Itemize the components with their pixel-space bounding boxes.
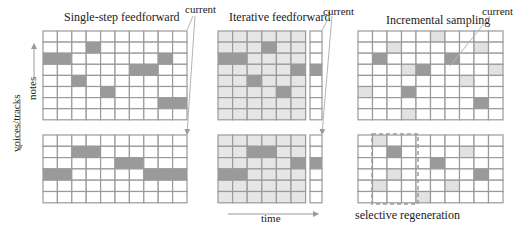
- grid-cell: [115, 169, 129, 180]
- grid-cell: [115, 98, 129, 109]
- grid-cell: [416, 42, 431, 53]
- grid-cell: [173, 87, 187, 98]
- grid-cell: [129, 98, 143, 109]
- grid-cell: [276, 158, 291, 169]
- grid-cell: [43, 53, 57, 64]
- grid-cell: [276, 98, 291, 109]
- grid-cell: [460, 53, 475, 64]
- grid-cell: [173, 42, 187, 53]
- grid-cell: [72, 192, 86, 203]
- grid-cell: [474, 53, 489, 64]
- grid-cell: [129, 53, 143, 64]
- grid-cell: [431, 158, 446, 169]
- grid-cell: [276, 146, 291, 157]
- grid-cell: [358, 180, 373, 191]
- grid-cell: [57, 75, 71, 86]
- grid-cell: [72, 87, 86, 98]
- grid-cell: [247, 158, 262, 169]
- diagram-canvas: [0, 0, 516, 232]
- grid-cell: [218, 75, 233, 86]
- grid-cell: [262, 31, 277, 42]
- grid-cell: [310, 158, 322, 169]
- grid-cell: [129, 31, 143, 42]
- grid-cell: [489, 135, 504, 146]
- grid-cell: [276, 31, 291, 42]
- grid-cell: [247, 64, 262, 75]
- grid-cell: [310, 109, 322, 120]
- grid-cell: [489, 87, 504, 98]
- grid-cell: [310, 135, 322, 146]
- grid-cell: [218, 146, 233, 157]
- grid-cell: [460, 98, 475, 109]
- grid-cell: [262, 109, 277, 120]
- grid-cell: [218, 64, 233, 75]
- grid-cell: [474, 146, 489, 157]
- grid-cell: [86, 42, 100, 53]
- grid-single-top: [43, 31, 187, 120]
- grid-cell: [144, 87, 158, 98]
- grid-cell: [445, 180, 460, 191]
- grid-cell: [489, 146, 504, 157]
- grid-cell: [387, 64, 402, 75]
- grid-cell: [445, 192, 460, 203]
- grid-cell: [57, 135, 71, 146]
- grid-cell: [291, 42, 306, 53]
- grid-cell: [144, 31, 158, 42]
- grid-cell: [262, 75, 277, 86]
- grid-cell: [291, 75, 306, 86]
- grid-cell: [291, 109, 306, 120]
- grid-cell: [43, 87, 57, 98]
- grid-cell: [431, 42, 446, 53]
- grid-cell: [489, 64, 504, 75]
- grid-cell: [402, 146, 417, 157]
- grid-cell: [310, 42, 322, 53]
- grid-cell: [129, 87, 143, 98]
- grid-cell: [218, 169, 233, 180]
- grid-cell: [460, 64, 475, 75]
- grid-cell: [233, 158, 248, 169]
- grid-cell: [115, 135, 129, 146]
- grid-cell: [218, 87, 233, 98]
- grid-cell: [474, 135, 489, 146]
- grid-cell: [445, 42, 460, 53]
- grid-cell: [158, 192, 172, 203]
- grid-cell: [247, 169, 262, 180]
- grid-cell: [144, 109, 158, 120]
- grid-cell: [158, 109, 172, 120]
- grid-cell: [276, 169, 291, 180]
- grid-cell: [276, 135, 291, 146]
- grid-cell: [416, 87, 431, 98]
- grid-cell: [129, 109, 143, 120]
- grid-cell: [247, 180, 262, 191]
- grid-cell: [262, 158, 277, 169]
- grid-cell: [247, 31, 262, 42]
- grid-cell: [474, 169, 489, 180]
- grid-cell: [358, 169, 373, 180]
- grid-cell: [158, 146, 172, 157]
- grid-iter-bottom-current: [310, 135, 322, 203]
- grid-cell: [57, 64, 71, 75]
- grid-cell: [247, 146, 262, 157]
- grid-cell: [115, 64, 129, 75]
- grid-cell: [247, 109, 262, 120]
- grid-cell: [387, 98, 402, 109]
- grid-cell: [129, 42, 143, 53]
- grid-cell: [218, 158, 233, 169]
- grid-cell: [233, 42, 248, 53]
- grid-cell: [247, 98, 262, 109]
- grid-cell: [291, 98, 306, 109]
- grid-cell: [101, 87, 115, 98]
- grid-cell: [474, 109, 489, 120]
- grid-cell: [402, 98, 417, 109]
- grid-cell: [431, 98, 446, 109]
- grid-cell: [43, 109, 57, 120]
- grid-cell: [262, 169, 277, 180]
- grid-cell: [233, 192, 248, 203]
- grid-cell: [57, 42, 71, 53]
- grid-cell: [431, 31, 446, 42]
- grid-cell: [291, 180, 306, 191]
- grid-cell: [233, 53, 248, 64]
- grid-cell: [115, 31, 129, 42]
- grid-cell: [101, 31, 115, 42]
- grid-cell: [474, 158, 489, 169]
